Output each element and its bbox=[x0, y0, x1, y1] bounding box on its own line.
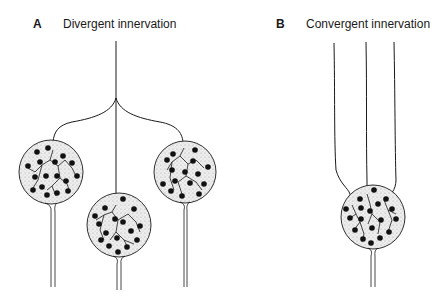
target-cell-right bbox=[154, 141, 216, 287]
target-cell-convergent bbox=[341, 185, 405, 287]
axon-3 bbox=[384, 42, 396, 200]
innervation-diagram bbox=[0, 0, 442, 303]
target-cell-left bbox=[19, 140, 83, 287]
axon-branch-right bbox=[116, 98, 184, 148]
target-cell-middle bbox=[87, 193, 151, 290]
axon-1 bbox=[334, 43, 352, 205]
axon-2 bbox=[366, 42, 367, 194]
panel-b-diagram bbox=[334, 42, 396, 205]
